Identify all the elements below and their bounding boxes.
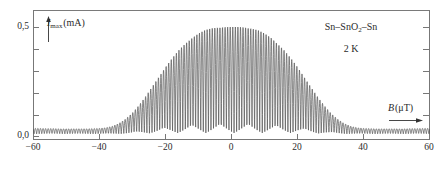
x-tick-label--60: −60 [18, 143, 48, 153]
x-tick-label--40: −40 [84, 143, 114, 153]
curve-path [33, 27, 430, 134]
x-tick-label-0: 0 [216, 143, 246, 153]
x-tick-label-60: 60 [414, 143, 444, 153]
x-tick-label-20: 20 [282, 143, 312, 153]
y-tick-label-top: 0,5 [0, 22, 29, 32]
x-tick-label--20: −20 [150, 143, 180, 153]
data-curve [33, 10, 430, 140]
chart-figure: 0,5 0,0 −60 −40 −20 0 20 40 60 Imax (mA)… [0, 0, 446, 173]
x-tick-label-40: 40 [348, 143, 378, 153]
y-tick-label-bottom: 0,0 [0, 131, 29, 141]
